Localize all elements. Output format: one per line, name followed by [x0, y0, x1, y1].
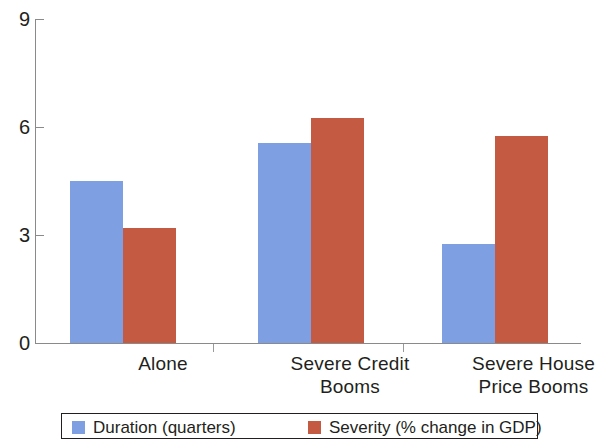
legend-entry-duration: Duration (quarters) — [72, 417, 236, 437]
category-label-line: Booms — [265, 375, 435, 398]
bar-severe-credit-booms-severity — [311, 118, 364, 343]
x-axis-category-labels: Alone Severe Credit Booms Severe House P… — [36, 352, 581, 404]
x-tick-mark-1 — [213, 344, 214, 352]
chart-legend: Duration (quarters) Severity (% change i… — [61, 413, 538, 439]
x-tick-mark-2 — [403, 344, 404, 352]
legend-swatch-icon — [72, 421, 85, 434]
bar-alone-duration — [70, 181, 123, 343]
bar-severe-house-price-booms-duration — [442, 244, 495, 343]
category-label-severe-house-price-booms: Severe House Price Booms — [446, 352, 599, 398]
bar-severe-house-price-booms-severity — [495, 136, 548, 343]
legend-entry-severity: Severity (% change in GDP) — [308, 417, 542, 437]
legend-swatch-icon — [308, 421, 321, 434]
bar-severe-credit-booms-duration — [258, 143, 311, 343]
category-label-line: Price Booms — [446, 375, 599, 398]
category-label-line: Severe Credit — [265, 352, 435, 375]
bar-alone-severity — [123, 228, 176, 343]
category-label-severe-credit-booms: Severe Credit Booms — [265, 352, 435, 398]
legend-label: Severity (% change in GDP) — [329, 418, 542, 437]
legend-label: Duration (quarters) — [93, 418, 236, 437]
category-label-line: Alone — [83, 352, 243, 375]
category-label-alone: Alone — [83, 352, 243, 375]
category-label-line: Severe House — [446, 352, 599, 375]
bars-layer — [0, 19, 583, 343]
x-axis-line — [35, 343, 581, 344]
